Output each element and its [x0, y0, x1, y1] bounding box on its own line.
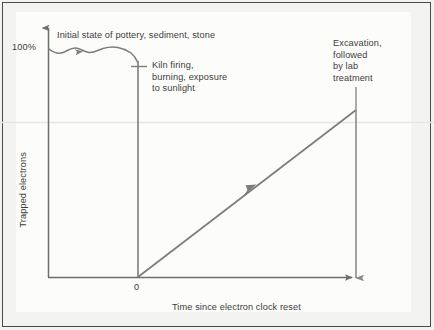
x-axis-origin-label: 0 — [134, 282, 139, 294]
annotation-initial-state: Initial state of pottery, sediment, ston… — [57, 30, 215, 42]
accumulation-direction-arrow — [244, 185, 257, 197]
annotation-kiln-firing: Kiln firing, burning, exposure to sunlig… — [152, 60, 227, 95]
y-axis-max-label: 100% — [12, 42, 36, 54]
x-axis-title: Time since electron clock reset — [172, 302, 301, 314]
annotation-excavation: Excavation, followed by lab treatment — [333, 38, 382, 84]
y-axis-title: Trapped electrons — [18, 140, 30, 240]
figure-root: Trapped electrons 100% 0 Time since elec… — [0, 0, 434, 330]
electron-accumulation-line — [138, 110, 356, 277]
initial-state-wavy-line — [49, 47, 138, 62]
